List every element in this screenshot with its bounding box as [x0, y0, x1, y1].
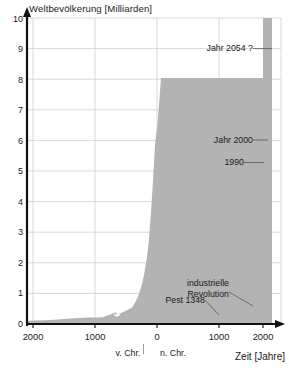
- annotation-jahr-1990: 1990: [208, 158, 244, 167]
- x-tick-1000-ad: 1000: [196, 333, 242, 342]
- y-tick-9: 9: [3, 45, 23, 54]
- y-tick-5: 5: [3, 167, 23, 176]
- chart-title: Weltbevölkerung [Milliarden]: [29, 4, 152, 14]
- annotation-jahr-2054: Jahr 2054 ?: [203, 44, 253, 53]
- y-tick-4: 4: [3, 198, 23, 207]
- y-tick-2: 2: [3, 259, 23, 268]
- y-tick-8: 8: [3, 76, 23, 85]
- y-tick-7: 7: [3, 106, 23, 115]
- annotation-jahr-2000: Jahr 2000: [197, 136, 253, 145]
- x-tick-2000-ad: 2000: [240, 333, 286, 342]
- projection-band: [263, 18, 272, 324]
- x-axis-title: Zeit [Jahre]: [235, 352, 285, 362]
- annotation-industrielle-revolution-line1: industrielle: [153, 278, 229, 289]
- y-tick-3: 3: [3, 228, 23, 237]
- era-label-bc: v. Chr.: [105, 349, 151, 358]
- annotation-pest-1348: Pest 1348: [147, 296, 205, 305]
- era-divider: [143, 344, 144, 354]
- chart-canvas: [0, 0, 289, 371]
- y-tick-0: 0: [3, 320, 23, 329]
- x-tick-1000-bc: 1000: [72, 333, 118, 342]
- x-tick-2000-bc: 2000: [10, 333, 56, 342]
- y-tick-10: 10: [3, 15, 23, 24]
- era-label-ad: n. Chr.: [150, 349, 196, 358]
- population-chart: Weltbevölkerung [Milliarden] 10 9 8 7 6 …: [0, 0, 289, 371]
- x-tick-0: 0: [134, 333, 180, 342]
- y-tick-6: 6: [3, 137, 23, 146]
- y-tick-1: 1: [3, 289, 23, 298]
